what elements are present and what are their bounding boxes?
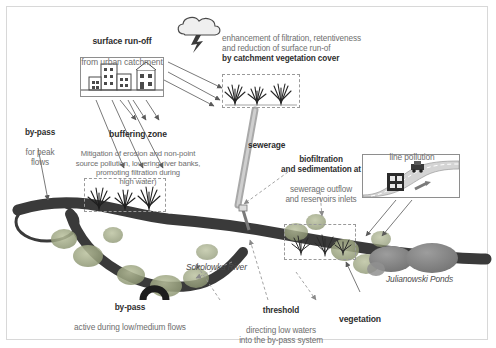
threshold-heading: threshold (222, 306, 340, 316)
catchment-vegetation-box (222, 74, 300, 108)
surface-runoff-body: from urban catchment (81, 57, 163, 67)
label-buffering-zone: buffering zone Mitigation of erosion and… (62, 120, 214, 187)
by-pass-low-heading: by-pass (60, 302, 200, 312)
buffering-zone-heading: buffering zone (62, 129, 214, 139)
label-threshold: threshold directing low waters into the … (222, 296, 340, 346)
biofiltration-body: sewerage outflow and reservoirs inlets (285, 185, 356, 204)
storm-cloud-icon (172, 12, 224, 54)
label-biofiltration: biofiltration and sedimentation at sewer… (268, 145, 374, 205)
label-line-pollution: line pollution (372, 142, 452, 163)
by-pass-peak-body: for peak flows (26, 148, 55, 167)
pond-inlet-vegetation-box (284, 224, 356, 260)
label-ponds-name: Julianowski Ponds (386, 274, 486, 284)
catchment-cover-body: enhancement of filtration, retentiveness… (222, 34, 361, 53)
line-pollution-heading: line pollution (389, 152, 434, 162)
label-surface-runoff: surface run-off from urban catchment (66, 26, 178, 68)
vehicle-near (387, 173, 404, 191)
by-pass-low-body: active during low/medium flows (74, 322, 186, 332)
label-river-name: Sokolowka River (186, 262, 282, 272)
diagram-canvas: surface run-off from urban catchment enh… (0, 0, 496, 348)
grass-tufts-icon (285, 225, 355, 259)
threshold-body: directing low waters into the by-pass sy… (239, 326, 323, 345)
surface-runoff-heading: surface run-off (66, 36, 178, 46)
label-catchment-cover: enhancement of filtration, retentiveness… (222, 24, 412, 74)
catchment-cover-heading: by catchment vegetation cover (222, 54, 412, 64)
vegetation-heading: vegetation (324, 314, 396, 324)
biofiltration-heading: biofiltration and sedimentation at (268, 155, 374, 175)
grass-tufts-icon (223, 75, 299, 107)
label-vegetation: vegetation (324, 304, 396, 335)
buffering-zone-body: Mitigation of erosion and non-point sour… (76, 149, 201, 186)
label-by-pass-low: by-pass active during low/medium flows (60, 292, 200, 332)
